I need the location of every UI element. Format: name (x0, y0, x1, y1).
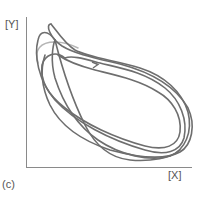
y-axis-label: [Y] (5, 19, 18, 30)
panel-label: (c) (2, 179, 15, 190)
x-axis-label: [X] (168, 170, 181, 181)
phase-portrait (0, 0, 201, 197)
trajectory (37, 24, 193, 161)
trajectory-cross (55, 40, 180, 161)
